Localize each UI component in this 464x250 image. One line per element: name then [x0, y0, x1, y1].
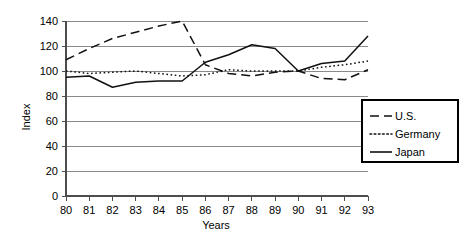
y-axis-title: Index	[20, 103, 32, 130]
legend-label-u-s: U.S.	[395, 110, 416, 122]
x-axis-tick-marks	[66, 196, 368, 201]
x-tick-label: 81	[83, 204, 95, 216]
x-tick-label: 82	[106, 204, 118, 216]
y-tick-label: 140	[40, 15, 58, 27]
y-tick-label: 60	[46, 115, 58, 127]
x-axis-tick-labels: 8081828384858687888990919293	[60, 204, 374, 216]
x-axis-title: Years	[202, 219, 230, 231]
data-series-group	[66, 21, 368, 87]
x-tick-label: 86	[199, 204, 211, 216]
line-chart: 020406080100120140 808182838485868788899…	[0, 0, 464, 250]
x-tick-label: 91	[315, 204, 327, 216]
x-tick-label: 84	[153, 204, 165, 216]
gridlines-group	[62, 21, 368, 196]
x-tick-label: 85	[176, 204, 188, 216]
y-axis-tick-labels: 020406080100120140	[40, 15, 58, 202]
x-tick-label: 87	[222, 204, 234, 216]
y-tick-label: 0	[52, 190, 58, 202]
legend: U.S.GermanyJapan	[362, 100, 458, 162]
y-tick-label: 100	[40, 65, 58, 77]
y-tick-label: 20	[46, 165, 58, 177]
y-tick-label: 80	[46, 90, 58, 102]
x-tick-label: 80	[60, 204, 72, 216]
y-tick-label: 40	[46, 140, 58, 152]
x-tick-label: 88	[246, 204, 258, 216]
series-line-japan	[66, 36, 368, 87]
x-tick-label: 93	[362, 204, 374, 216]
x-tick-label: 90	[292, 204, 304, 216]
x-tick-label: 89	[269, 204, 281, 216]
y-tick-label: 120	[40, 40, 58, 52]
legend-label-germany: Germany	[395, 128, 441, 140]
chart-canvas: 020406080100120140 808182838485868788899…	[0, 0, 464, 250]
x-tick-label: 92	[339, 204, 351, 216]
legend-label-japan: Japan	[395, 146, 425, 158]
x-tick-label: 83	[130, 204, 142, 216]
